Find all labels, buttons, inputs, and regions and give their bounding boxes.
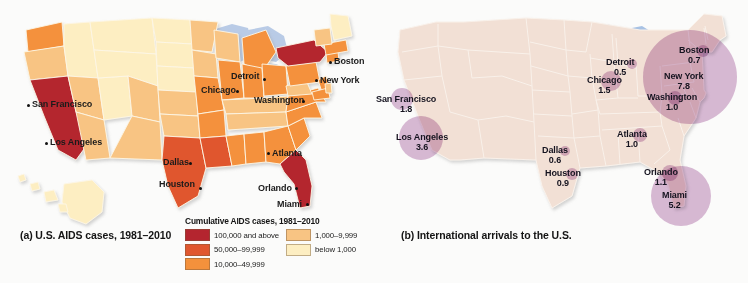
city-label-san-francisco: San Francisco	[32, 100, 92, 109]
bubble-city-name: Orlando	[644, 167, 678, 177]
bubble-city-name: Detroit	[606, 57, 634, 67]
bubble-value: 1.1	[644, 177, 678, 187]
legend-swatch	[185, 229, 210, 241]
state-ar	[198, 110, 226, 138]
bubble-city-name: Los Angeles	[396, 132, 448, 142]
legend-column-right: 1,000–9,999below 1,000	[286, 229, 357, 270]
state-mt	[90, 18, 156, 54]
city-label-washington: Washington	[254, 96, 304, 105]
state-ok	[160, 114, 200, 138]
bubble-value: 1.5	[587, 85, 622, 95]
legend-title: Cumulative AIDS cases, 1981–2010	[185, 216, 374, 226]
bubble-value: 0.5	[606, 67, 634, 77]
legend-column-left: 100,000 and above50,000–99,99910,000–49,…	[185, 229, 279, 270]
city-label-miami: Miami	[277, 200, 302, 209]
bubble-label-miami: Miami5.2	[662, 190, 687, 210]
city-label-boston: Boston	[334, 57, 364, 66]
city-label-detroit: Detroit	[231, 72, 259, 81]
bubble-label-san-francisco: San Francisco1.8	[376, 94, 436, 114]
bubble-value: 3.6	[396, 142, 448, 152]
bubble-label-orlando: Orlando1.1	[644, 167, 678, 187]
bubble-value: 0.6	[542, 155, 568, 165]
city-label-houston: Houston	[159, 180, 195, 189]
legend-row: 50,000–99,999	[185, 244, 279, 256]
bubble-value: 0.7	[679, 55, 709, 65]
bubble-value: 5.2	[662, 200, 687, 210]
bubble-label-dallas: Dallas0.6	[542, 145, 568, 165]
bubble-value: 1.0	[647, 102, 697, 112]
city-label-atlanta: Atlanta	[272, 149, 302, 158]
state-ut	[98, 76, 132, 120]
bubble-label-atlanta: Atlanta1.0	[617, 129, 647, 149]
state-wi	[214, 30, 240, 62]
bubble-label-los-angeles: Los Angeles3.6	[396, 132, 448, 152]
state-me	[330, 14, 352, 40]
state-ak	[62, 180, 104, 224]
state-tn	[226, 112, 288, 130]
state-polygons	[18, 14, 352, 224]
panel-b-caption: (b) International arrivals to the U.S.	[401, 229, 572, 241]
legend-row: 100,000 and above	[185, 229, 279, 241]
bubble-city-name: Miami	[662, 190, 687, 200]
legend-swatch	[185, 258, 210, 270]
bubble-value: 0.9	[545, 178, 581, 188]
panel-a-aids-choropleth-map: San FranciscoLos AngelesDallasHoustonChi…	[0, 0, 374, 283]
state-al	[244, 132, 266, 164]
legend-swatch	[185, 244, 210, 256]
state-nd	[152, 18, 192, 44]
city-label-los-angeles: Los Angeles	[50, 138, 102, 147]
legend-row: below 1,000	[286, 244, 357, 256]
legend-label: below 1,000	[315, 245, 356, 254]
city-label-new-york: New York	[320, 76, 359, 85]
us-choropleth-svg	[0, 0, 374, 230]
bubble-city-name: Dallas	[542, 145, 568, 155]
panel-b-international-arrivals-map: San Francisco1.8Los Angeles3.6Chicago1.5…	[374, 0, 748, 283]
state-nm	[110, 116, 162, 160]
legend-swatch	[286, 229, 311, 241]
state-hi	[18, 174, 68, 212]
state-mn	[190, 20, 218, 52]
city-label-dallas: Dallas	[163, 158, 189, 167]
legend-label: 100,000 and above	[214, 231, 279, 240]
bubble-value: 1.0	[617, 139, 647, 149]
bubble-label-detroit: Detroit0.5	[606, 57, 634, 77]
aids-cases-legend: Cumulative AIDS cases, 1981–2010 100,000…	[178, 216, 374, 270]
legend-swatch	[286, 244, 311, 256]
bubble-label-new-york: New York7.8	[664, 71, 703, 91]
state-or	[24, 46, 68, 80]
bubble-value: 1.8	[376, 104, 436, 114]
bubble-label-boston: Boston0.7	[679, 45, 709, 65]
legend-label: 1,000–9,999	[315, 231, 357, 240]
legend-row: 1,000–9,999	[286, 229, 357, 241]
state-ks	[158, 90, 198, 116]
bubble-city-name: Boston	[679, 45, 709, 55]
bubble-city-name: Washington	[647, 92, 697, 102]
bubble-label-houston: Houston0.9	[545, 168, 581, 188]
bubble-city-name: New York	[664, 71, 703, 81]
state-ia	[192, 50, 218, 78]
panel-a-caption: (a) U.S. AIDS cases, 1981–2010	[20, 229, 171, 241]
bubble-label-washington: Washington1.0	[647, 92, 697, 112]
bubble-city-name: San Francisco	[376, 94, 436, 104]
bubble-city-name: Houston	[545, 168, 581, 178]
legend-label: 10,000–49,999	[214, 260, 265, 269]
state-sd	[156, 42, 194, 68]
legend-row: 10,000–49,999	[185, 258, 279, 270]
bubble-value: 7.8	[664, 81, 703, 91]
state-tx	[162, 136, 206, 208]
state-vt-nh	[314, 28, 332, 46]
state-ne	[157, 66, 196, 92]
bubble-city-name: Atlanta	[617, 129, 647, 139]
legend-label: 50,000–99,999	[214, 245, 265, 254]
city-label-chicago: Chicago	[201, 86, 236, 95]
bubble-label-chicago: Chicago1.5	[587, 75, 622, 95]
city-label-orlando: Orlando	[258, 184, 292, 193]
